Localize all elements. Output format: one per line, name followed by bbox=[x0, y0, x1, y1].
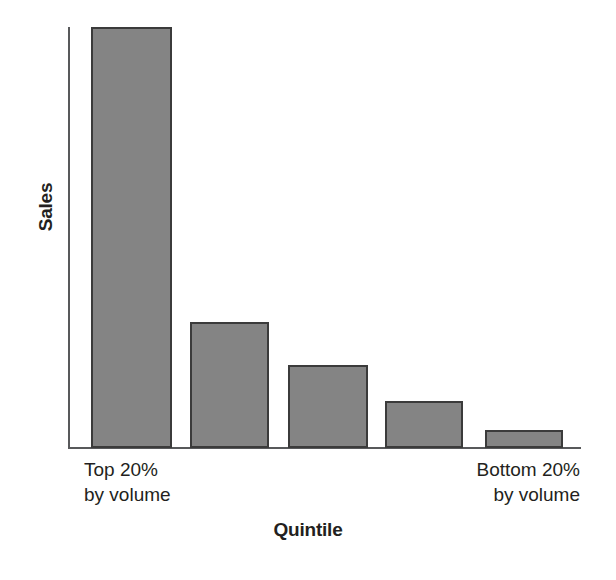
y-axis-title: Sales bbox=[35, 157, 57, 257]
bar-quintile-3 bbox=[288, 365, 368, 448]
category-label-last-line2: by volume bbox=[477, 482, 581, 507]
bar-quintile-2 bbox=[190, 322, 269, 448]
bar-quintile-4 bbox=[385, 401, 463, 448]
bar-quintile-5 bbox=[485, 430, 563, 448]
category-label-last-line1: Bottom 20% bbox=[477, 457, 581, 482]
bar-quintile-1 bbox=[91, 27, 172, 448]
category-label-first: Top 20% by volume bbox=[84, 457, 171, 507]
category-label-first-line2: by volume bbox=[84, 482, 171, 507]
category-label-last: Bottom 20% by volume bbox=[477, 457, 581, 507]
bar-chart: Sales Quintile Top 20% by volume Bottom … bbox=[0, 0, 616, 580]
x-axis-title: Quintile bbox=[0, 519, 616, 541]
category-label-first-line1: Top 20% bbox=[84, 457, 171, 482]
plot-area bbox=[68, 27, 581, 448]
